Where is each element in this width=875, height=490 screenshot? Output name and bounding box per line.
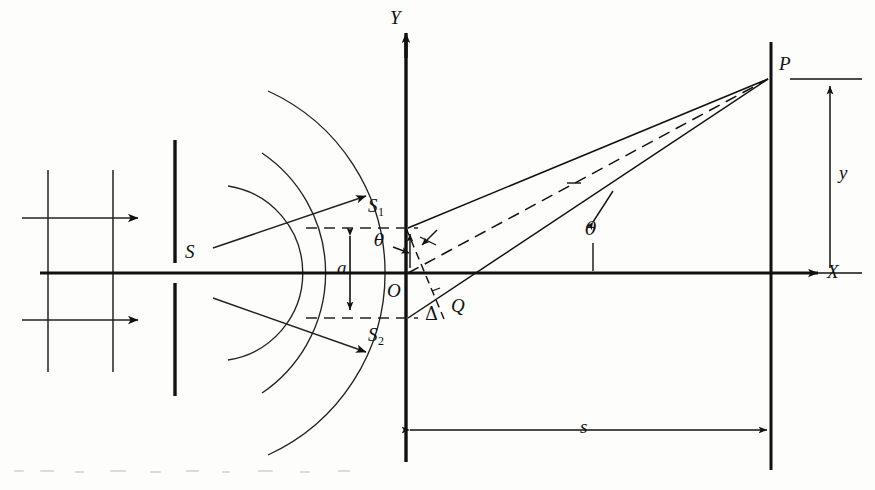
diverging-ray-lower [213,298,366,352]
label-slit-lower: S2 [368,325,384,344]
label-fringe-height: y [839,163,847,182]
central-axis-to-p [408,79,768,273]
optics-diagram-figure: S S1 S2 O Y X P Q a s y Δ θ θ [0,0,875,490]
label-angle-theta-near: θ [374,232,384,249]
label-origin: O [387,281,401,300]
label-point-q: Q [451,296,465,315]
scan-artifact [14,470,24,472]
diverging-ray-upper [213,196,366,248]
scan-artifact [110,470,126,472]
label-slit-lower-index: 2 [378,334,384,348]
label-path-difference: Δ [425,305,438,323]
incident-ray-arrows [22,218,138,320]
label-screen-distance: s [580,417,587,436]
label-slit-lower-letter: S [368,324,378,345]
label-angle-theta-far: θ [585,219,596,238]
label-axis-y: Y [390,8,401,27]
label-source-slit: S [185,242,195,261]
scan-artifact [338,470,350,472]
scan-artifact [222,471,230,473]
label-slit-upper-letter: S [368,195,378,216]
label-slit-separation: a [337,258,347,277]
angle-theta-near-markers [393,230,437,268]
theta-near-second-pointer [422,230,437,245]
incident-plane-wavefronts [48,170,113,372]
label-slit-upper-index: 1 [378,205,384,219]
label-axis-x: X [827,262,839,281]
ray-from-s1-to-p [408,79,768,228]
ray-from-s2-to-p [408,79,768,318]
theta-far-pointer [593,191,613,222]
label-point-p: P [779,54,791,73]
scan-artifact [258,470,273,472]
scan-artifact [186,470,199,472]
scan-artifact [75,471,84,473]
interference-rays [408,79,768,318]
diagram-canvas [0,0,875,490]
label-slit-upper: S1 [368,196,384,215]
fringe-height-dimension [790,79,862,273]
scan-artifact [150,471,161,473]
scan-artifact [40,470,54,472]
scan-artifact [300,471,310,473]
right-angle-tick-q [432,288,440,291]
